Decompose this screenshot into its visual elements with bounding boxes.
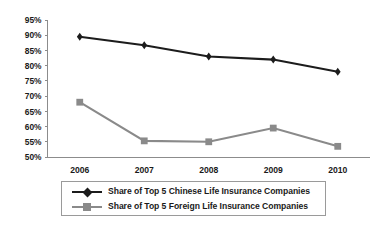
y-tick-label: 90% — [25, 30, 42, 40]
plot-svg: 50%55%60%65%70%75%80%85%90%95% 200620072… — [0, 0, 384, 180]
y-tick-label: 95% — [25, 15, 42, 25]
y-tick-label: 75% — [25, 76, 42, 86]
data-point-marker — [270, 125, 277, 132]
data-point-marker — [76, 99, 83, 106]
x-tick-label: 2009 — [264, 165, 283, 175]
series-markers-chinese — [77, 33, 341, 76]
legend-item-chinese: Share of Top 5 Chinese Life Insurance Co… — [62, 184, 325, 199]
x-tick-label: 2008 — [199, 165, 218, 175]
chart-legend: Share of Top 5 Chinese Life Insurance Co… — [61, 181, 326, 216]
plot-area: 50%55%60%65%70%75%80%85%90%95% 200620072… — [0, 0, 384, 180]
legend-swatch-diamond-icon — [72, 186, 102, 198]
legend-label-chinese: Share of Top 5 Chinese Life Insurance Co… — [108, 187, 310, 196]
data-point-marker — [206, 53, 212, 61]
data-point-marker — [205, 138, 212, 145]
y-tick-labels: 50%55%60%65%70%75%80%85%90%95% — [25, 15, 42, 162]
y-tick-label: 65% — [25, 107, 42, 117]
y-tick-label: 80% — [25, 61, 42, 71]
y-tick-label: 85% — [25, 46, 42, 56]
y-tick-label: 70% — [25, 91, 42, 101]
data-point-marker — [270, 56, 276, 64]
data-point-marker — [335, 68, 341, 76]
x-tick-labels: 20062007200820092010 — [70, 165, 347, 175]
data-point-marker — [77, 33, 83, 41]
line-chart: 50%55%60%65%70%75%80%85%90%95% 200620072… — [0, 0, 384, 228]
y-tick-label: 55% — [25, 137, 42, 147]
legend-label-foreign: Share of Top 5 Foreign Life Insurance Co… — [108, 202, 308, 211]
legend-swatch-square-icon — [72, 201, 102, 213]
legend-item-foreign: Share of Top 5 Foreign Life Insurance Co… — [62, 199, 325, 214]
x-tick-label: 2006 — [70, 165, 89, 175]
data-point-marker — [141, 137, 148, 144]
data-point-marker — [141, 41, 147, 49]
y-tick-label: 50% — [25, 152, 42, 162]
x-tick-label: 2007 — [135, 165, 154, 175]
y-tick-label: 60% — [25, 122, 42, 132]
x-tick-label: 2010 — [328, 165, 347, 175]
data-point-marker — [334, 143, 341, 150]
